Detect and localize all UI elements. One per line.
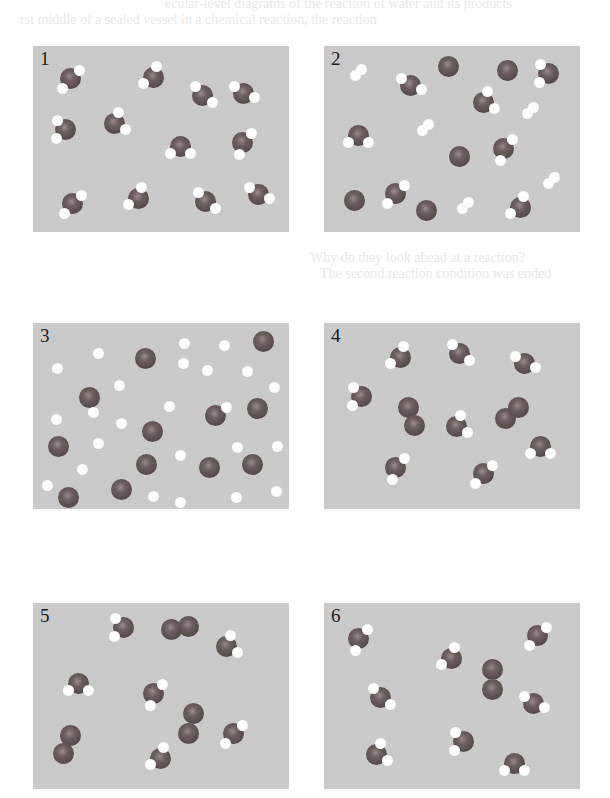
hydrogen-atom [178,358,189,369]
hydrogen-atom [462,427,473,438]
oxygen-atom [497,60,518,81]
hydrogen-atom [93,348,104,359]
hydrogen-atom [385,699,396,710]
oxygen-atom [438,56,459,77]
hydrogen-atom [449,745,460,756]
hydrogen-atom [246,128,257,139]
hydrogen-atom [545,448,556,459]
hydrogen-atom [362,624,373,635]
hydrogen-atom [464,355,475,366]
hydrogen-atom [229,81,240,92]
hydrogen-atom [519,765,530,776]
panel-number-label: 3 [40,325,50,347]
hydrogen-atom [93,438,104,449]
oxygen-atom [242,454,263,475]
hydrogen-atom [528,102,539,113]
hydrogen-atom [57,83,68,94]
hydrogen-atom [387,474,398,485]
oxygen-atom [344,190,365,211]
panel-4: 4 [324,323,580,509]
panel-5: 5 [33,603,289,789]
hydrogen-atom [185,148,196,159]
hydrogen-atom [269,382,280,393]
hydrogen-atom [51,133,62,144]
oxygen-atom [482,659,503,680]
hydrogen-atom [398,341,409,352]
hydrogen-atom [59,208,70,219]
hydrogen-atom [242,366,253,377]
hydrogen-atom [525,448,536,459]
hydrogen-atom [416,84,427,95]
panel-6: 6 [324,603,580,789]
ghost-text-line: The second reaction condition was ended [320,266,551,282]
hydrogen-atom [539,702,550,713]
hydrogen-atom [534,77,545,88]
hydrogen-atom [234,149,245,160]
hydrogen-atom [541,622,552,633]
hydrogen-atom [179,338,190,349]
hydrogen-atom [499,765,510,776]
hydrogen-atom [487,460,498,471]
hydrogen-atom [138,78,149,89]
oxygen-atom [48,436,69,457]
hydrogen-atom [52,115,63,126]
hydrogen-atom [272,441,283,452]
hydrogen-atom [145,700,156,711]
oxygen-atom [111,479,132,500]
hydrogen-atom [535,59,546,70]
panel-number-label: 5 [40,605,50,627]
hydrogen-atom [249,92,260,103]
hydrogen-atom [549,172,560,183]
hydrogen-atom [219,340,230,351]
hydrogen-atom [507,134,518,145]
hydrogen-atom [375,738,386,749]
hydrogen-atom [74,65,85,76]
hydrogen-atom [232,442,243,453]
hydrogen-atom [193,187,204,198]
hydrogen-atom [347,400,358,411]
panel-2: 2 [324,46,580,232]
hydrogen-atom [396,73,407,84]
hydrogen-atom [83,685,94,696]
oxygen-atom [416,200,437,221]
hydrogen-atom [495,155,506,166]
panel-number-label: 6 [331,605,341,627]
hydrogen-atom [518,191,529,202]
hydrogen-atom [470,478,481,489]
oxygen-atom [178,616,199,637]
hydrogen-atom [232,647,243,658]
hydrogen-atom [530,362,541,373]
hydrogen-atom [244,182,255,193]
ghost-text-line: Why do they look ahead at a reaction? [310,250,525,266]
panel-3: 3 [33,323,289,509]
oxygen-atom [404,415,425,436]
hydrogen-atom [42,480,53,491]
hydrogen-atom [505,208,516,219]
hydrogen-atom [109,631,120,642]
hydrogen-atom [482,86,493,97]
hydrogen-atom [164,401,175,412]
hydrogen-atom [136,182,147,193]
hydrogen-atom [382,198,393,209]
hydrogen-atom [51,414,62,425]
hydrogen-atom [221,402,232,413]
oxygen-atom [53,743,74,764]
hydrogen-atom [343,137,354,148]
oxygen-atom [58,487,79,508]
hydrogen-atom [463,197,474,208]
hydrogen-atom [264,193,275,204]
oxygen-atom [253,331,274,352]
hydrogen-atom [399,180,410,191]
hydrogen-atom [231,492,242,503]
hydrogen-atom [175,497,186,508]
hydrogen-atom [63,685,74,696]
panel-number-label: 4 [331,325,341,347]
panel-number-label: 2 [331,48,341,70]
hydrogen-atom [225,630,236,641]
hydrogen-atom [76,190,87,201]
oxygen-atom [142,421,163,442]
hydrogen-atom [356,64,367,75]
hydrogen-atom [120,124,131,135]
hydrogen-atom [519,691,530,702]
oxygen-atom [183,703,204,724]
